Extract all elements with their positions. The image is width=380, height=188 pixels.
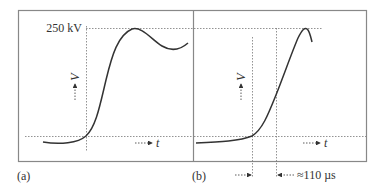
voltage-curve-b: [196, 28, 312, 143]
t-axis-label-a: t: [156, 136, 160, 150]
interval-label: ≈110 µs: [297, 168, 336, 182]
v-axis-label-a: V: [68, 72, 82, 81]
peak-voltage-label: 250 kV: [46, 21, 82, 35]
panel-label-b: (b): [192, 169, 206, 183]
t-axis-label-b: t: [324, 136, 328, 150]
voltage-curve-a: [43, 29, 188, 144]
panel-b: V t ≈110 µs (b): [192, 28, 366, 183]
impulse-voltage-figure: 250 kV V t (a) V t ≈110 µs (b): [0, 0, 380, 188]
panel-a: 250 kV V t (a): [17, 21, 323, 183]
panel-label-a: (a): [17, 169, 30, 183]
v-axis-label-b: V: [234, 72, 248, 81]
